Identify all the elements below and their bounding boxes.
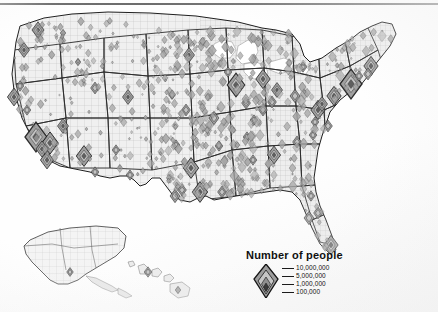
legend-leader-line [282,292,294,293]
legend-title: Number of people [246,249,343,261]
legend-leader-line [282,268,294,269]
legend-value: 100,000 [296,288,320,296]
map-page: Number of people 10,000,000 5,000,000 1,… [0,0,438,312]
legend-entry: 1,000,000 [282,280,356,288]
legend-value: 1,000,000 [296,280,326,288]
legend-entry: 10,000,000 [282,264,356,272]
legend-entries: 10,000,000 5,000,000 1,000,000 100,000 [282,264,356,296]
map-canvas [0,0,438,312]
legend-value: 5,000,000 [296,272,326,280]
legend-entry: 100,000 [282,288,356,296]
legend-value: 10,000,000 [296,264,330,272]
us-population-map [0,0,438,312]
hawaii-inset [128,261,190,298]
legend-symbol-nested-diamonds [252,264,280,298]
alaska-inset [0,210,160,312]
legend-entry: 5,000,000 [282,272,356,280]
legend: Number of people 10,000,000 5,000,000 1,… [232,249,352,301]
legend-leader-line [282,284,294,285]
legend-leader-line [282,276,294,277]
